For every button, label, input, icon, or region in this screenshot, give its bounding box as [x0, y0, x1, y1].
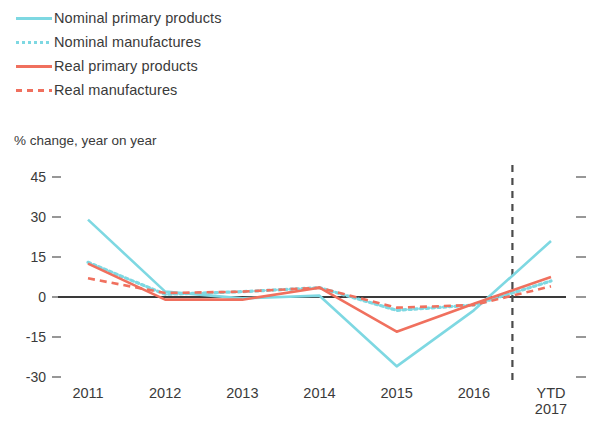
series-line-0	[88, 220, 551, 367]
y-axis-tick-label: 15	[0, 249, 46, 265]
y-axis-tick-label: 30	[0, 209, 46, 225]
chart-svg	[0, 0, 592, 430]
x-axis-tick-label: 2015	[381, 385, 413, 401]
x-axis-tick-label: 2014	[303, 385, 335, 401]
y-axis-tick-label: 45	[0, 169, 46, 185]
y-axis-tick-label: 0	[0, 289, 46, 305]
x-axis-tick-label: 2011	[72, 385, 103, 401]
x-axis-tick-label: 2012	[149, 385, 181, 401]
x-axis-tick-label: 2013	[226, 385, 258, 401]
x-axis-tick-label: YTD 2017	[535, 385, 567, 417]
y-axis-tick-label: -30	[0, 369, 46, 385]
x-axis-tick-label: 2016	[458, 385, 490, 401]
chart-plot-area: 4530150-15-30 201120122013201420152016YT…	[0, 0, 592, 430]
y-axis-tick-label: -15	[0, 329, 46, 345]
